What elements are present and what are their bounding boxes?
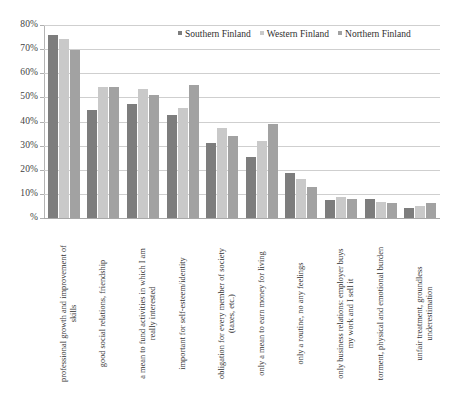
bar — [206, 143, 216, 218]
y-axis-tick-label: 60% — [0, 68, 38, 78]
legend-label: Southern Finland — [185, 29, 251, 40]
legend-swatch-icon — [178, 31, 182, 35]
x-axis-category-label: a mean to fund activities in which I amr… — [138, 221, 157, 406]
bar — [307, 187, 317, 218]
x-axis-category-label: important for self-esteem/identity — [178, 221, 188, 406]
x-axis-category-label: only a mean to earn money for living — [257, 221, 267, 406]
plot-area — [44, 25, 440, 218]
x-axis-category-label: unfair treatment, groundlessunderestimat… — [415, 221, 434, 406]
y-axis-tick — [40, 73, 44, 74]
x-axis-category-label: only business relations: employer buysmy… — [336, 221, 355, 406]
bar — [415, 206, 425, 218]
bar — [138, 89, 148, 218]
bar-group — [246, 25, 278, 218]
x-axis-category-label: good social relations, friendship — [98, 221, 108, 406]
bar — [285, 173, 295, 218]
y-axis-tick — [40, 194, 44, 195]
y-axis-tick-label: 50% — [0, 92, 38, 102]
y-axis-tick — [40, 170, 44, 171]
bar-group — [404, 25, 436, 218]
bar — [178, 108, 188, 218]
y-axis-tick-label: 20% — [0, 165, 38, 175]
y-axis-tick — [40, 97, 44, 98]
x-axis-labels: professional growth and improvement ofsk… — [44, 221, 440, 411]
bar — [217, 128, 227, 218]
legend-label: Northern Finland — [345, 29, 411, 40]
y-axis-tick — [40, 218, 44, 219]
x-axis-category-label: professional growth and improvement ofsk… — [59, 221, 78, 406]
bar-group — [87, 25, 119, 218]
bar — [336, 197, 346, 218]
y-axis-tick — [40, 49, 44, 50]
bar — [426, 203, 436, 218]
bar — [228, 136, 238, 219]
bar — [325, 200, 335, 218]
bar — [127, 104, 137, 218]
bar — [257, 141, 267, 218]
y-axis-tick — [40, 122, 44, 123]
x-axis-category-label: torment, physical and emotional burden — [376, 221, 386, 406]
legend-swatch-icon — [338, 31, 342, 35]
bar — [109, 87, 119, 218]
y-axis-tick-label: 30% — [0, 141, 38, 151]
bar — [347, 199, 357, 218]
y-axis-tick-label: % — [0, 213, 38, 223]
bar-group — [167, 25, 199, 218]
bar — [149, 95, 159, 218]
y-axis-tick-label: 40% — [0, 117, 38, 127]
bar — [246, 157, 256, 218]
legend-label: Western Finland — [267, 29, 329, 40]
bar — [189, 85, 199, 218]
y-axis-tick — [40, 25, 44, 26]
bar — [268, 124, 278, 218]
bar-chart: %10%20%30%40%50%60%70%80% Southern Finla… — [0, 0, 449, 413]
bar — [98, 87, 108, 218]
bar — [296, 179, 306, 218]
bar-group — [206, 25, 238, 218]
y-axis-tick-label: 10% — [0, 189, 38, 199]
bar — [387, 203, 397, 218]
legend-item-southern-finland: Southern Finland — [178, 29, 251, 40]
bar — [70, 50, 80, 218]
x-axis-category-label: obligation for every member of society(t… — [217, 221, 236, 406]
legend-item-northern-finland: Northern Finland — [338, 29, 411, 40]
legend-item-western-finland: Western Finland — [260, 29, 329, 40]
bar-group — [285, 25, 317, 218]
bar — [365, 199, 375, 218]
bar-group — [325, 25, 357, 218]
gridline — [44, 218, 440, 219]
bar — [48, 35, 58, 218]
bar-group — [365, 25, 397, 218]
y-axis-tick-label: 80% — [0, 20, 38, 30]
bar-group — [127, 25, 159, 218]
bar-group — [48, 25, 80, 218]
y-axis-labels: %10%20%30%40%50%60%70%80% — [0, 0, 38, 413]
chart-legend: Southern Finland Western Finland Norther… — [178, 29, 411, 40]
bar — [87, 110, 97, 218]
legend-swatch-icon — [260, 31, 264, 35]
bar — [404, 208, 414, 218]
bar — [167, 115, 177, 218]
bar — [59, 39, 69, 218]
bar — [376, 202, 386, 218]
y-axis-tick — [40, 146, 44, 147]
x-axis-category-label: only a routine, no any feelings — [296, 221, 306, 406]
y-axis-tick-label: 70% — [0, 44, 38, 54]
